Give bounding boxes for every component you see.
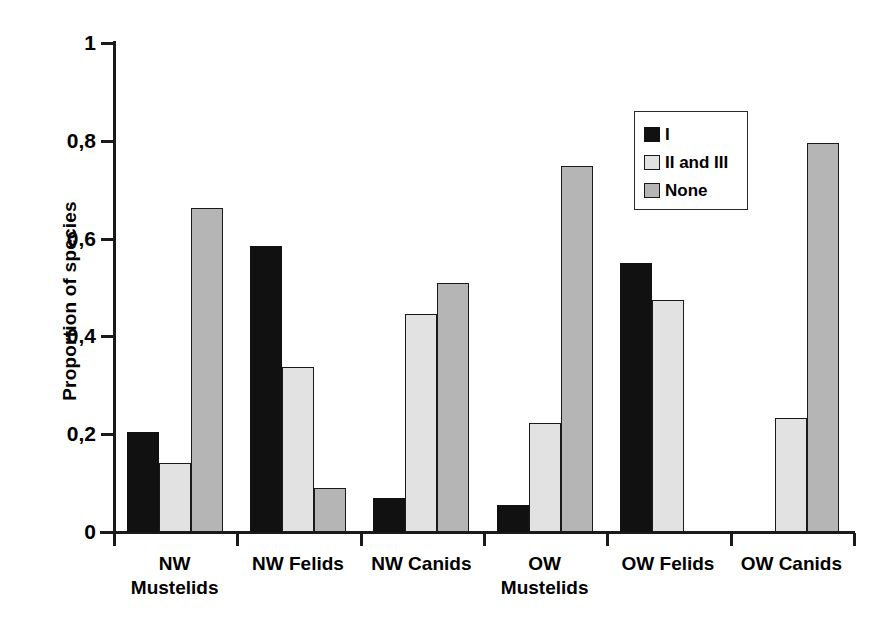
y-axis-tick-label: 0 bbox=[6, 521, 96, 542]
x-axis-tick bbox=[113, 533, 116, 546]
y-axis-tick-label: 0,8 bbox=[6, 130, 96, 151]
legend-swatch-icon bbox=[644, 127, 660, 142]
legend-item: I bbox=[644, 120, 747, 148]
x-axis-category-label: NW Canids bbox=[360, 552, 483, 576]
bar bbox=[620, 263, 652, 532]
chart-legend: III and IIINone bbox=[634, 111, 748, 210]
x-axis-category-label: NW Felids bbox=[236, 552, 359, 576]
y-axis-tick-label: 0,4 bbox=[6, 325, 96, 346]
x-axis-tick bbox=[360, 533, 363, 546]
y-axis-tick-label: 1 bbox=[6, 32, 96, 53]
x-axis-tick bbox=[730, 533, 733, 546]
bar bbox=[191, 208, 223, 532]
bar bbox=[282, 367, 314, 532]
bar bbox=[159, 463, 191, 532]
x-axis-tick bbox=[236, 533, 239, 546]
bar bbox=[314, 488, 346, 532]
bar bbox=[775, 418, 807, 532]
x-axis-category-label: OW Mustelids bbox=[483, 552, 606, 601]
bar bbox=[497, 505, 529, 532]
y-axis-tick-label: 0,2 bbox=[6, 423, 96, 444]
bar-chart: Proportion of species 10,80,60,40,20 NW … bbox=[0, 0, 875, 625]
x-axis-tick bbox=[606, 533, 609, 546]
bar bbox=[373, 498, 405, 532]
bar bbox=[529, 423, 561, 532]
x-axis-category-label: OW Canids bbox=[730, 552, 853, 576]
y-axis-tick-label: 0,6 bbox=[6, 228, 96, 249]
y-axis-title: Proportion of species bbox=[59, 151, 81, 451]
bar bbox=[127, 432, 159, 532]
x-axis-category-label: NW Mustelids bbox=[113, 552, 236, 601]
legend-swatch-icon bbox=[644, 155, 660, 170]
x-axis-tick bbox=[853, 533, 856, 546]
x-axis-category-label: OW Felids bbox=[606, 552, 729, 576]
legend-item: None bbox=[644, 176, 747, 204]
legend-label: None bbox=[665, 182, 708, 199]
bar bbox=[437, 283, 469, 532]
legend-label: I bbox=[665, 126, 670, 143]
legend-swatch-icon bbox=[644, 183, 660, 198]
bar bbox=[405, 314, 437, 532]
legend-item: II and III bbox=[644, 148, 747, 176]
bar bbox=[561, 166, 593, 532]
legend-label: II and III bbox=[665, 154, 728, 171]
x-axis-tick bbox=[483, 533, 486, 546]
bar bbox=[250, 246, 282, 532]
bar bbox=[807, 143, 839, 532]
bar bbox=[652, 300, 684, 532]
